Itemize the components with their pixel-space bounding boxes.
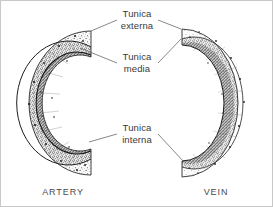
label-tunica-externa-line1: Tunica	[109, 8, 165, 20]
label-tunica-interna-line2: interna	[109, 134, 165, 146]
artery-tunica-media	[17, 41, 91, 165]
vessel-cross-section-illustration	[1, 1, 273, 207]
label-tunica-media-line2: media	[109, 63, 165, 75]
histology-figure: Tunica externa Tunica media Tunica inter…	[0, 0, 273, 207]
label-tunica-interna: Tunica interna	[109, 122, 165, 145]
label-tunica-externa: Tunica externa	[109, 8, 165, 31]
label-tunica-media-line1: Tunica	[109, 51, 165, 63]
label-tunica-externa-line2: externa	[109, 20, 165, 32]
caption-vein: VEIN	[176, 187, 256, 197]
artery-cross-section	[17, 31, 91, 175]
label-tunica-media: Tunica media	[109, 51, 165, 74]
label-tunica-interna-line1: Tunica	[109, 122, 165, 134]
vein-cross-section	[182, 29, 245, 177]
caption-artery: ARTERY	[23, 187, 103, 197]
